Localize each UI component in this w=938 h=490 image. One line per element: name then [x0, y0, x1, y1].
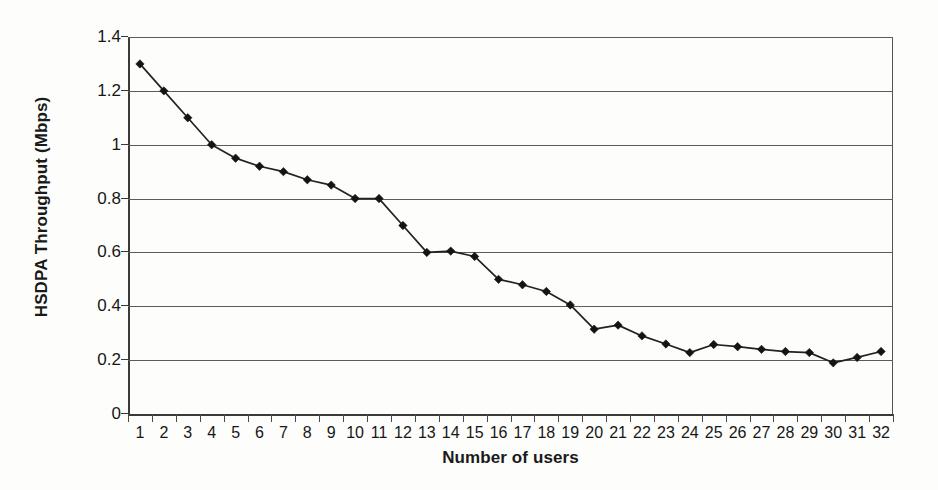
x-tick-label: 5: [231, 424, 240, 442]
y-tick-mark: [121, 198, 128, 199]
x-tick-mark: [726, 414, 727, 422]
x-tick-label: 29: [800, 424, 818, 442]
x-tick-label: 32: [872, 424, 890, 442]
x-tick-label: 25: [705, 424, 723, 442]
x-tick-mark: [534, 414, 535, 422]
x-tick-mark: [343, 414, 344, 422]
x-tick-mark: [750, 414, 751, 422]
x-tick-mark: [654, 414, 655, 422]
x-tick-label: 11: [371, 424, 388, 442]
series-markers: [136, 60, 885, 367]
x-tick-label: 17: [514, 424, 532, 442]
x-tick-label: 18: [537, 424, 555, 442]
data-point-marker: [686, 348, 694, 356]
y-tick-mark: [121, 413, 128, 414]
x-tick-label: 24: [681, 424, 699, 442]
x-tick-mark: [487, 414, 488, 422]
plot-area: 00.20.40.60.811.21.4 1234567891011121314…: [128, 37, 893, 414]
x-tick-label: 10: [346, 424, 364, 442]
x-tick-label: 23: [657, 424, 675, 442]
data-point-marker: [542, 287, 550, 295]
data-point-marker: [805, 348, 813, 356]
x-tick-mark: [271, 414, 272, 422]
x-tick-mark: [415, 414, 416, 422]
x-axis-title: Number of users: [128, 448, 893, 468]
data-point-marker: [829, 359, 837, 367]
x-tick-label: 27: [753, 424, 771, 442]
x-tick-label: 26: [729, 424, 747, 442]
y-tick-label: 0.4: [97, 296, 128, 316]
x-tick-label: 22: [633, 424, 651, 442]
y-tick-label: 0: [112, 404, 128, 424]
x-tick-label: 20: [585, 424, 603, 442]
y-tick-mark: [121, 359, 128, 360]
data-point-marker: [447, 247, 455, 255]
y-tick-label: 1.4: [97, 27, 128, 47]
x-tick-mark: [295, 414, 296, 422]
x-tick-mark: [678, 414, 679, 422]
x-tick-mark: [558, 414, 559, 422]
x-tick-label: 28: [777, 424, 795, 442]
data-point-marker: [518, 281, 526, 289]
x-tick-mark: [893, 414, 894, 422]
x-tick-mark: [224, 414, 225, 422]
y-axis-title: HSDPA Throughput (Mbps): [22, 0, 62, 414]
x-tick-mark: [845, 414, 846, 422]
x-tick-mark: [582, 414, 583, 422]
data-point-marker: [662, 340, 670, 348]
data-point-marker: [327, 181, 335, 189]
data-point-marker: [614, 321, 622, 329]
y-tick-mark: [121, 90, 128, 91]
y-tick-mark: [121, 36, 128, 37]
y-tick-label: 1: [112, 135, 128, 155]
x-tick-label: 2: [159, 424, 168, 442]
x-tick-mark: [511, 414, 512, 422]
data-point-marker: [757, 345, 765, 353]
x-tick-mark: [821, 414, 822, 422]
y-tick-label: 0.2: [97, 350, 128, 370]
data-point-marker: [710, 340, 718, 348]
y-tick-mark: [121, 251, 128, 252]
x-tick-label: 6: [255, 424, 264, 442]
x-tick-mark: [463, 414, 464, 422]
x-tick-mark: [319, 414, 320, 422]
x-tick-mark: [702, 414, 703, 422]
data-point-marker: [351, 194, 359, 202]
data-point-marker: [231, 154, 239, 162]
data-point-marker: [781, 347, 789, 355]
x-tick-mark: [439, 414, 440, 422]
x-tick-mark: [367, 414, 368, 422]
x-tick-mark: [797, 414, 798, 422]
x-tick-label: 16: [490, 424, 508, 442]
x-tick-mark: [773, 414, 774, 422]
data-point-marker: [733, 342, 741, 350]
x-tick-label: 1: [136, 424, 145, 442]
x-tick-mark: [391, 414, 392, 422]
y-tick-label: 0.6: [97, 242, 128, 262]
data-point-marker: [303, 176, 311, 184]
x-tick-label: 21: [609, 424, 627, 442]
x-tick-label: 9: [327, 424, 336, 442]
x-tick-label: 3: [183, 424, 192, 442]
x-tick-mark: [176, 414, 177, 422]
x-tick-label: 7: [279, 424, 288, 442]
data-point-marker: [279, 167, 287, 175]
x-tick-mark: [248, 414, 249, 422]
data-point-marker: [638, 332, 646, 340]
x-tick-mark: [128, 414, 129, 422]
x-tick-label: 14: [442, 424, 460, 442]
x-tick-label: 30: [824, 424, 842, 442]
x-tick-label: 15: [466, 424, 484, 442]
x-tick-label: 13: [418, 424, 436, 442]
y-tick-mark: [121, 144, 128, 145]
data-series: [128, 37, 893, 414]
x-tick-mark: [606, 414, 607, 422]
y-tick-label: 1.2: [97, 81, 128, 101]
y-tick-mark: [121, 305, 128, 306]
x-tick-mark: [200, 414, 201, 422]
data-point-marker: [877, 347, 885, 355]
data-point-marker: [255, 162, 263, 170]
data-point-marker: [853, 353, 861, 361]
x-tick-label: 4: [207, 424, 216, 442]
x-tick-mark: [152, 414, 153, 422]
